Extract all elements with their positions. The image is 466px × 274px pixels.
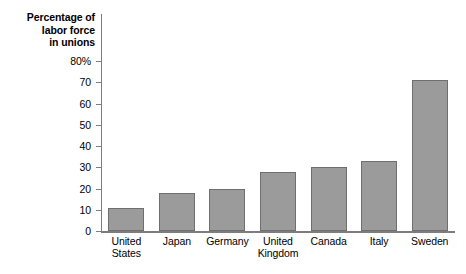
bar (311, 167, 347, 231)
bar-series (101, 14, 455, 231)
y-axis-title-line-1: Percentage of (10, 11, 95, 24)
y-axis-title-line-3: in unions (10, 36, 95, 49)
y-axis-tick-label: 10 (31, 205, 91, 216)
y-axis-tick-label: 70 (31, 77, 91, 88)
x-axis-category-label: Sweden (397, 236, 463, 248)
y-axis-title-line-2: labor force (10, 24, 95, 37)
bar-slot (303, 14, 354, 231)
bar-slot (354, 14, 405, 231)
bar-slot (253, 14, 304, 231)
bar (361, 161, 397, 231)
x-axis-category-label-line: States (93, 248, 159, 260)
x-axis-category-label-line: Kingdom (245, 248, 311, 260)
bar (260, 172, 296, 232)
bar-chart: Percentage of labor force in unions 0102… (0, 0, 466, 274)
y-axis-tick-label: 30 (31, 162, 91, 173)
bar-slot (202, 14, 253, 231)
y-axis-tick-label: 80% (31, 56, 91, 67)
x-axis-category-labels: UnitedStatesJapanGermanyUnitedKingdomCan… (101, 236, 455, 270)
x-axis-category-label-line: Sweden (397, 236, 463, 248)
y-axis-tick-label: 50 (31, 120, 91, 131)
x-axis-line (101, 231, 455, 233)
bar (209, 189, 245, 232)
bar (412, 80, 448, 231)
y-axis-tick (96, 231, 101, 232)
y-axis-title: Percentage of labor force in unions (10, 11, 95, 49)
y-axis-tick-label: 20 (31, 184, 91, 195)
y-axis-tick-label: 60 (31, 99, 91, 110)
bar (159, 193, 195, 231)
bar-slot (404, 14, 455, 231)
bar-slot (152, 14, 203, 231)
bar (108, 208, 144, 231)
y-axis-tick-label: 40 (31, 141, 91, 152)
y-axis-tick-label: 0 (31, 226, 91, 237)
bar-slot (101, 14, 152, 231)
